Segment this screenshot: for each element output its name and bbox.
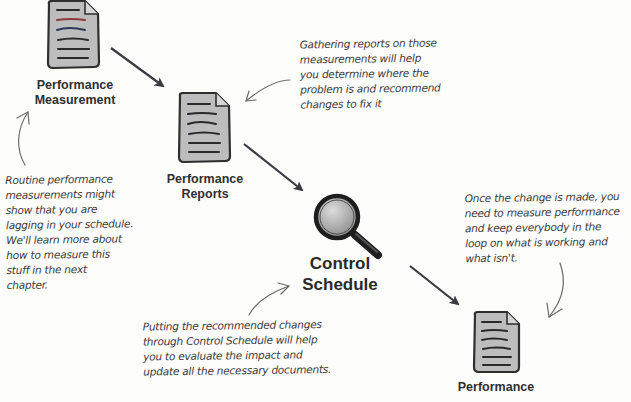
node-label-control-schedule: Control Schedule (290, 254, 390, 295)
node-label-performance-bottom: Performance (441, 380, 551, 395)
flow-arrow-3 (410, 266, 458, 304)
pointer-arrow-reports (246, 80, 290, 101)
diagram-canvas: Performance Measurement Performance Repo… (0, 0, 631, 402)
document-icon (174, 90, 234, 166)
node-label-performance-measurement: Performance Measurement (20, 78, 130, 108)
note-change: Once the change is made, you need to mea… (464, 189, 631, 267)
document-icon (469, 309, 523, 375)
note-control: Putting the recommended changes through … (143, 316, 364, 379)
pointer-arrow-control (249, 286, 289, 315)
note-measurement: Routine performance measurements might s… (5, 171, 157, 293)
note-reports: Gathering reports on those measurements … (299, 35, 500, 113)
document-icon (43, 0, 103, 72)
pointer-arrow-measurement (19, 112, 28, 165)
node-label-performance-reports: Performance Reports (150, 172, 260, 202)
